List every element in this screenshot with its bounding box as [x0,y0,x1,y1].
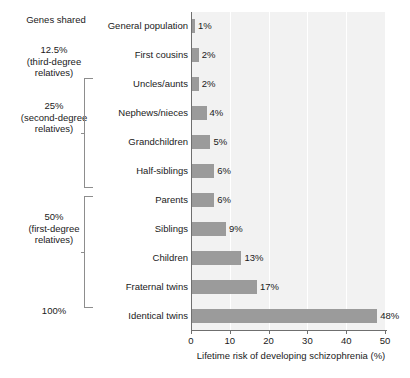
genes-group-third-degree: 12.5% (third-degree relatives) [2,44,106,79]
x-axis-tick-label: 30 [292,335,322,346]
bar-value-label: 6% [217,164,231,178]
bar [191,193,214,207]
gridline [346,12,347,330]
x-axis-tick-label: 10 [215,335,245,346]
bracket-first-degree [84,196,93,308]
bar [191,77,199,91]
x-axis-tick [191,330,192,334]
x-axis-tick [346,330,347,334]
bar [191,280,257,294]
category-label: Parents [96,194,188,205]
category-label: General population [96,20,188,31]
gridline [385,12,386,330]
bar [191,222,226,236]
x-axis-tick-label: 20 [254,335,284,346]
x-axis-tick-label: 0 [176,335,206,346]
x-axis-tick [269,330,270,334]
bar-value-label: 2% [202,77,216,91]
bar-value-label: 4% [210,106,224,120]
bar-value-label: 5% [213,135,227,149]
genes-group-line: (third-degree [2,56,106,68]
x-axis-tick [385,330,386,334]
category-label-list: General populationFirst cousinsUncles/au… [96,0,188,378]
bar [191,48,199,62]
genes-group-line: 12.5% [2,44,106,56]
bar [191,106,207,120]
x-axis-tick [307,330,308,334]
x-axis-line [191,330,387,331]
category-label: First cousins [96,49,188,60]
bar-value-label: 13% [244,251,263,265]
y-axis-line [191,12,192,331]
bar [191,164,214,178]
bar [191,135,210,149]
schizophrenia-risk-chart: Genes shared 12.5% (third-degree relativ… [0,0,410,378]
x-axis-tick-label: 40 [331,335,361,346]
x-axis-tick-label: 50 [370,335,400,346]
category-label: Nephews/nieces [96,107,188,118]
bar-value-label: 6% [217,193,231,207]
category-label: Half-siblings [96,165,188,176]
x-axis-tick [230,330,231,334]
bar-value-label: 2% [202,48,216,62]
category-label: Grandchildren [96,136,188,147]
bar [191,309,377,323]
bracket-second-degree [84,78,93,188]
bar-value-label: 17% [260,280,279,294]
bar-value-label: 9% [229,222,243,236]
bracket-nub [81,133,85,134]
category-label: Identical twins [96,310,188,321]
category-label: Uncles/aunts [96,78,188,89]
bar-value-label: 1% [198,19,212,33]
x-axis-title: Lifetime risk of developing schizophreni… [191,350,391,361]
gridline [307,12,308,330]
bar [191,251,241,265]
category-label: Siblings [96,223,188,234]
bar-value-label: 48% [380,309,399,323]
bracket-nub [81,252,85,253]
plot-area: 1%2%2%4%5%6%6%9%13%17%48% [191,12,385,330]
category-label: Children [96,252,188,263]
category-label: Fraternal twins [96,281,188,292]
